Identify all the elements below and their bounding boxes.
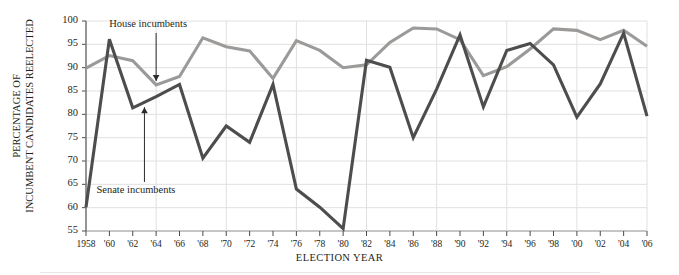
annotation-house-incumbents: House incumbents bbox=[109, 18, 187, 29]
chart-figure: PERCENTAGE OF INCUMBENT CANDIDATES REELE… bbox=[0, 0, 679, 275]
bottom-rule bbox=[40, 272, 600, 273]
y-axis-tick-label: 55 bbox=[44, 224, 78, 235]
plot-area bbox=[0, 0, 679, 275]
y-axis-tick-label: 65 bbox=[44, 177, 78, 188]
y-axis-tick-label: 85 bbox=[44, 84, 78, 95]
y-axis-tick-label: 100 bbox=[44, 14, 78, 25]
y-axis-tick-label: 95 bbox=[44, 37, 78, 48]
y-axis-tick-label: 90 bbox=[44, 61, 78, 72]
annotation-senate-incumbents: Senate incumbents bbox=[96, 184, 175, 195]
annotation-arrowhead bbox=[153, 75, 160, 81]
y-axis-tick-label: 70 bbox=[44, 154, 78, 165]
annotation-arrowhead bbox=[141, 107, 148, 113]
y-axis-tick-label: 60 bbox=[44, 201, 78, 212]
x-axis-title: ELECTION YEAR bbox=[0, 252, 679, 263]
y-axis-tick-label: 75 bbox=[44, 131, 78, 142]
x-axis-tick-label: '06 bbox=[627, 239, 667, 249]
y-axis-tick-label: 80 bbox=[44, 107, 78, 118]
